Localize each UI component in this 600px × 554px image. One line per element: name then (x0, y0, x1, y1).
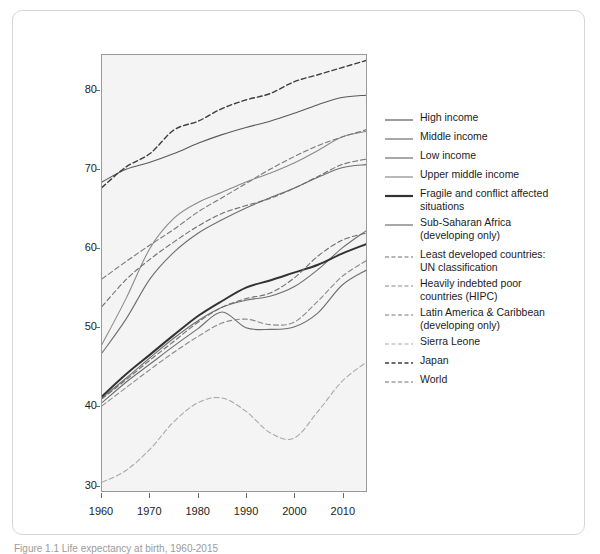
y-axis-tick-mark (95, 406, 100, 407)
plot-area (101, 54, 367, 492)
x-axis-tick-label: 1970 (137, 505, 161, 517)
x-axis-tick-mark (246, 493, 247, 498)
x-axis-tick-label: 1980 (185, 505, 209, 517)
legend-item[interactable]: Least developed countries: UN classifica… (385, 248, 597, 273)
series-line (102, 231, 366, 398)
legend-item-label: Least developed countries: UN classifica… (420, 248, 546, 273)
legend-item-label: Middle income (420, 130, 488, 143)
x-axis-tick-mark (343, 493, 344, 498)
series-line (102, 130, 366, 279)
y-axis-tick-label: 40 (63, 400, 97, 411)
series-line (102, 362, 366, 482)
legend-swatch-dashed-icon (385, 280, 413, 292)
x-axis-tick-label: 1960 (89, 505, 113, 517)
legend-swatch-dashed-icon (385, 251, 413, 263)
figure-card: 304050607080 196019701980199020002010 Hi… (12, 10, 585, 535)
legend-item[interactable]: High income (385, 111, 597, 126)
y-axis: 304050607080 (57, 54, 97, 492)
line-chart-canvas (102, 55, 366, 491)
y-axis-tick-label: 50 (63, 321, 97, 332)
y-axis-tick-mark (95, 90, 100, 91)
legend-swatch-dashed-icon (385, 357, 413, 369)
y-axis-tick-label: 70 (63, 163, 97, 174)
x-axis-tick-mark (198, 493, 199, 498)
y-axis-tick-label: 80 (63, 84, 97, 95)
legend-swatch-solid-icon (385, 171, 413, 183)
legend-swatch-dashed-icon (385, 309, 413, 321)
legend-item[interactable]: Latin America & Caribbean (developing on… (385, 306, 597, 331)
x-axis-tick-label: 2000 (282, 505, 306, 517)
series-line (102, 61, 366, 188)
legend-item[interactable]: Low income (385, 149, 597, 164)
legend-swatch-dashed-icon (385, 376, 413, 388)
x-axis-tick-label: 2010 (331, 505, 355, 517)
legend-swatch-solid-icon (385, 219, 413, 231)
legend-item[interactable]: Middle income (385, 130, 597, 145)
y-axis-tick-mark (95, 248, 100, 249)
legend-item[interactable]: Sub-Saharan Africa (developing only) (385, 216, 597, 241)
series-line (102, 95, 366, 182)
legend-item-label: Fragile and conflict affected situations (420, 187, 548, 212)
legend-item[interactable]: World (385, 373, 597, 388)
series-line (102, 270, 366, 402)
chart-legend: High incomeMiddle incomeLow incomeUpper … (385, 111, 597, 392)
legend-item[interactable]: Sierra Leone (385, 335, 597, 350)
legend-item-label: Sub-Saharan Africa (developing only) (420, 216, 511, 241)
legend-item-label: Sierra Leone (420, 335, 480, 348)
legend-item-label: World (420, 373, 447, 386)
series-line (102, 233, 366, 399)
y-axis-tick-label: 30 (63, 480, 97, 491)
y-axis-tick-mark (95, 169, 100, 170)
y-axis-tick-label: 60 (63, 242, 97, 253)
legend-swatch-solid-icon (385, 152, 413, 164)
series-line (102, 131, 366, 344)
x-axis-tick-mark (294, 493, 295, 498)
series-line (102, 165, 366, 353)
legend-item[interactable]: Japan (385, 354, 597, 369)
figure-caption: Figure 1.1 Life expectancy at birth, 196… (14, 543, 218, 554)
series-line (102, 244, 366, 396)
legend-item[interactable]: Heavily indebted poor countries (HIPC) (385, 277, 597, 302)
y-axis-tick-mark (95, 327, 100, 328)
legend-swatch-solid-icon (385, 133, 413, 145)
legend-item-label: High income (420, 111, 478, 124)
x-axis-tick-label: 1990 (234, 505, 258, 517)
series-line (102, 159, 366, 306)
legend-item-label: Heavily indebted poor countries (HIPC) (420, 277, 522, 302)
x-axis-tick-mark (149, 493, 150, 498)
legend-item[interactable]: Upper middle income (385, 168, 597, 183)
legend-swatch-solid-icon (385, 114, 413, 126)
y-axis-tick-mark (95, 486, 100, 487)
legend-swatch-dashed-icon (385, 338, 413, 350)
legend-item[interactable]: Fragile and conflict affected situations (385, 187, 597, 212)
legend-item-label: Japan (420, 354, 449, 367)
legend-item-label: Low income (420, 149, 476, 162)
legend-swatch-solid-icon (385, 190, 413, 202)
x-axis-tick-mark (101, 493, 102, 498)
legend-item-label: Upper middle income (420, 168, 519, 181)
x-axis: 196019701980199020002010 (101, 493, 367, 521)
legend-item-label: Latin America & Caribbean (developing on… (420, 306, 545, 331)
series-line (102, 261, 366, 406)
